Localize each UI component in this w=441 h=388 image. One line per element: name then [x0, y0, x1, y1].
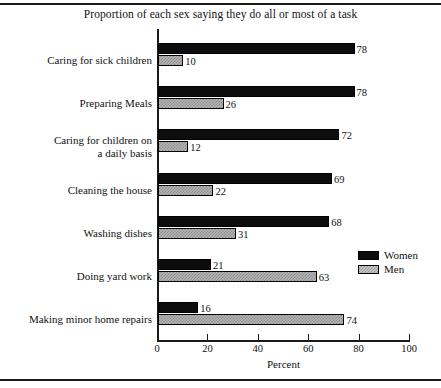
bar-value-label: 31 — [238, 229, 249, 240]
category-label: Caring for children on a daily basis — [0, 134, 152, 159]
bar-men — [158, 141, 188, 152]
chart-legend: Women Men — [358, 248, 418, 276]
legend-item-men: Men — [358, 262, 418, 276]
bar-value-label: 16 — [200, 303, 211, 314]
category-label: Washing dishes — [0, 227, 152, 240]
x-tick-label: 40 — [253, 343, 264, 354]
bar-men — [158, 98, 224, 109]
bar-men — [158, 271, 317, 282]
bar-women — [158, 302, 198, 313]
bar-men — [158, 55, 183, 66]
chart-title: Proportion of each sex saying they do al… — [0, 8, 441, 20]
bar-women — [158, 86, 355, 97]
bar-women — [158, 259, 211, 270]
bar-women — [158, 129, 339, 140]
bar-women — [158, 216, 329, 227]
category-label: Preparing Meals — [0, 97, 152, 110]
legend-label-men: Men — [384, 263, 404, 275]
legend-swatch-men-icon — [358, 265, 379, 274]
bar-men — [158, 185, 213, 196]
category-label: Doing yard work — [0, 270, 152, 283]
bar-value-label: 74 — [346, 315, 357, 326]
bar-men — [158, 314, 344, 325]
chart-figure: Proportion of each sex saying they do al… — [0, 0, 441, 388]
x-tick-label: 0 — [154, 343, 159, 354]
bottom-divider-rule — [0, 379, 441, 381]
bar-value-label: 68 — [331, 217, 342, 228]
bar-value-label: 63 — [319, 272, 330, 283]
bar-value-label: 78 — [357, 87, 368, 98]
x-tick-label: 80 — [353, 343, 364, 354]
category-label: Making minor home repairs — [0, 313, 152, 326]
category-label: Cleaning the house — [0, 184, 152, 197]
x-tick-label: 20 — [202, 343, 213, 354]
legend-swatch-women-icon — [358, 251, 379, 260]
bar-value-label: 22 — [215, 186, 226, 197]
x-axis-label: Percent — [157, 358, 410, 370]
legend-item-women: Women — [358, 248, 418, 262]
bar-value-label: 10 — [185, 56, 196, 67]
bar-value-label: 12 — [190, 142, 201, 153]
bar-value-label: 69 — [334, 174, 345, 185]
bar-value-label: 78 — [357, 44, 368, 55]
bar-value-label: 72 — [341, 130, 352, 141]
bar-women — [158, 173, 332, 184]
category-label: Caring for sick children — [0, 54, 152, 67]
x-axis-line — [157, 340, 410, 342]
x-tick-label: 60 — [303, 343, 314, 354]
x-tick-label: 100 — [401, 343, 417, 354]
bar-value-label: 26 — [226, 99, 237, 110]
legend-label-women: Women — [384, 249, 418, 261]
bar-men — [158, 228, 236, 239]
top-divider-rule — [0, 3, 441, 5]
bar-value-label: 21 — [213, 260, 224, 271]
bar-women — [158, 43, 355, 54]
